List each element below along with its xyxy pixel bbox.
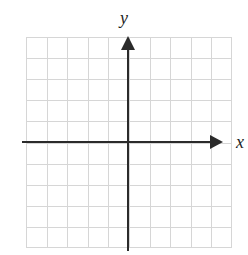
x-axis-arrow-icon <box>210 135 223 149</box>
grid-line-horizontal <box>26 164 232 165</box>
grid-line-horizontal <box>26 206 232 207</box>
grid-line-horizontal <box>26 100 232 101</box>
y-axis-label: y <box>120 9 128 27</box>
x-axis-label: x <box>236 133 244 151</box>
coordinate-plane-figure: y x <box>0 0 248 255</box>
grid-line-horizontal <box>26 121 232 122</box>
y-axis-arrow-icon <box>121 36 135 50</box>
grid-line-horizontal <box>26 185 232 186</box>
grid-line-horizontal <box>26 79 232 80</box>
x-axis <box>22 141 214 143</box>
y-axis <box>127 48 129 251</box>
grid-line-horizontal <box>26 58 232 59</box>
grid-line-horizontal <box>26 247 232 248</box>
grid-line-horizontal <box>26 227 232 228</box>
